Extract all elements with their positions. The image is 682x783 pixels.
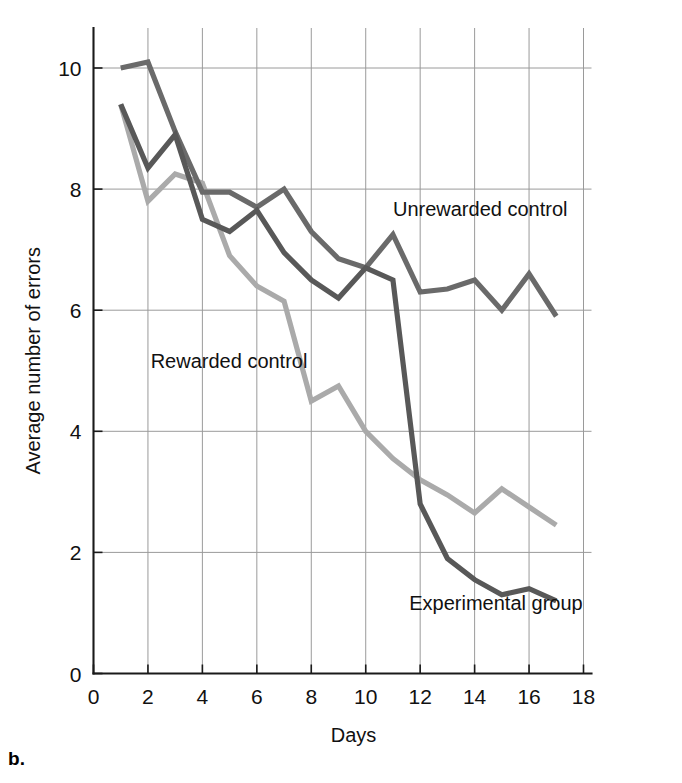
- series-label-unrewarded-control: Unrewarded control: [393, 198, 568, 220]
- panel-letter: b.: [8, 748, 25, 770]
- x-tick-label-0: 0: [88, 685, 100, 708]
- line-chart: 0246810121416180246810 Unrewarded contro…: [0, 0, 682, 783]
- data-series: [121, 62, 557, 601]
- figure-panel-b: 0246810121416180246810 Unrewarded contro…: [0, 0, 682, 783]
- y-tick-label-2: 2: [70, 541, 82, 564]
- x-tick-label-12: 12: [408, 685, 431, 708]
- series-annotations: Unrewarded controlExperimental groupRewa…: [151, 198, 583, 614]
- x-tick-label-16: 16: [517, 685, 540, 708]
- series-label-rewarded-control: Rewarded control: [151, 350, 308, 372]
- y-tick-label-0: 0: [70, 663, 82, 686]
- x-tick-label-18: 18: [572, 685, 595, 708]
- x-tick-label-6: 6: [251, 685, 263, 708]
- x-tick-label-4: 4: [197, 685, 209, 708]
- x-tick-label-8: 8: [305, 685, 317, 708]
- x-tick-label-2: 2: [142, 685, 154, 708]
- series-label-experimental-group: Experimental group: [409, 592, 582, 614]
- x-axis-title: Days: [331, 724, 377, 746]
- y-tick-label-10: 10: [58, 57, 81, 80]
- y-tick-label-4: 4: [70, 420, 82, 443]
- y-axis-title: Average number of errors: [22, 247, 44, 475]
- x-tick-label-14: 14: [463, 685, 487, 708]
- x-tick-label-10: 10: [354, 685, 377, 708]
- y-tick-label-6: 6: [70, 299, 82, 322]
- y-tick-label-8: 8: [70, 178, 82, 201]
